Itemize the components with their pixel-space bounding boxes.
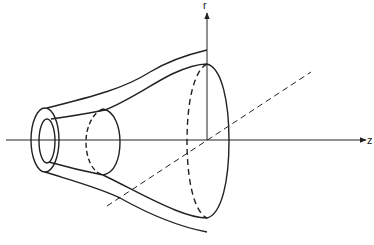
mid-section-front [103,109,120,175]
lower-inner-wall [49,162,207,218]
diagram-canvas: r z [0,0,374,245]
z-axis-label: z [367,134,373,146]
r-axis-label: r [203,0,207,11]
large-section-front [207,64,229,218]
lower-outer-wall [45,172,207,232]
upper-inner-wall [51,64,207,119]
large-section-back [187,64,207,218]
mid-section-back [86,109,103,175]
tube-mouth-inner-ellipse [39,119,55,163]
depth-axis-dashed [107,72,311,206]
